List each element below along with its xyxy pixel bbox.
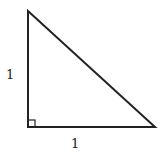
triangle-diagram: 1 1 — [0, 0, 165, 152]
right-triangle — [28, 11, 155, 127]
right-angle-marker — [28, 120, 35, 127]
vertical-leg-label: 1 — [6, 67, 14, 82]
horizontal-leg-label: 1 — [71, 136, 79, 151]
